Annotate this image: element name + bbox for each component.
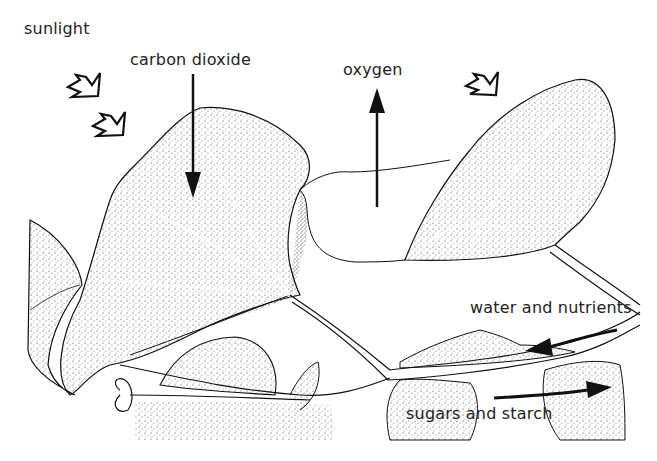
water-and-nutrients-label: water and nutrients [470,298,632,317]
sunlight-arrows [68,72,498,136]
sunlight-label: sunlight [24,19,90,38]
upper-right-leaf [405,79,615,260]
oxygen-label: oxygen [343,60,403,79]
photosynthesis-diagram: sunlight carbon dioxide oxygen water and… [0,0,657,461]
sunlight-arrow-icon [466,72,498,95]
carbon-dioxide-label: carbon dioxide [130,50,251,69]
sunlight-arrow-icon [93,112,125,136]
central-leaf [61,107,310,395]
sunlight-arrow-icon [68,73,100,97]
leaf-illustration [0,0,657,461]
oxygen-arrow-icon [369,88,385,207]
sugars-and-starch-label: sugars and starch [406,404,553,423]
